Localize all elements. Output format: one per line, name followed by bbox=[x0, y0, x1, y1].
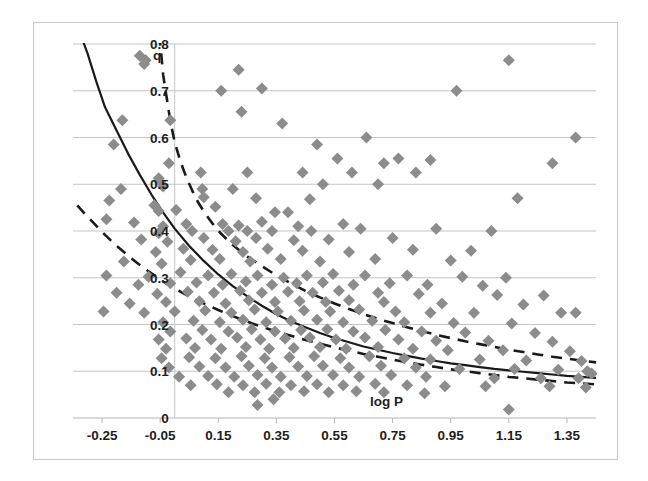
data-point-marker bbox=[237, 379, 249, 391]
data-point-marker bbox=[301, 269, 313, 281]
data-point-marker bbox=[215, 85, 227, 97]
data-point-marker bbox=[262, 243, 274, 255]
data-point-marker bbox=[420, 371, 432, 383]
data-point-marker bbox=[474, 354, 486, 366]
data-point-marker bbox=[343, 246, 355, 258]
data-point-marker bbox=[451, 85, 463, 97]
data-point-marker bbox=[378, 157, 390, 169]
data-point-marker bbox=[546, 336, 558, 348]
data-point-marker bbox=[424, 154, 436, 166]
data-point-marker bbox=[347, 279, 359, 291]
data-point-marker bbox=[275, 371, 287, 383]
data-point-marker bbox=[256, 82, 268, 94]
data-point-marker bbox=[151, 288, 163, 300]
data-point-marker bbox=[509, 363, 521, 375]
y-tick-label: 0.4 bbox=[0, 224, 169, 239]
data-point-marker bbox=[337, 316, 349, 328]
data-point-marker bbox=[196, 324, 208, 336]
data-point-marker bbox=[421, 279, 433, 291]
data-point-marker bbox=[379, 324, 391, 336]
data-point-marker bbox=[243, 294, 255, 306]
data-point-marker bbox=[445, 254, 457, 266]
data-point-marker bbox=[260, 378, 272, 390]
data-point-marker bbox=[375, 360, 387, 372]
figure-container: 00.10.20.30.40.50.60.70.8-0.25-0.050.150… bbox=[0, 0, 648, 481]
y-tick-label: 0.6 bbox=[0, 130, 169, 145]
y-tick-label: 0.2 bbox=[0, 317, 169, 332]
data-point-marker bbox=[308, 350, 320, 362]
data-point-marker bbox=[456, 271, 468, 283]
data-point-marker bbox=[353, 304, 365, 316]
data-point-marker bbox=[520, 355, 532, 367]
y-tick-label: 0.1 bbox=[0, 364, 169, 379]
data-point-marker bbox=[214, 316, 226, 328]
data-point-marker bbox=[491, 289, 503, 301]
data-point-marker bbox=[183, 351, 195, 363]
data-point-marker bbox=[231, 332, 243, 344]
data-point-marker bbox=[448, 317, 460, 329]
y-tick-label: 0.8 bbox=[0, 37, 169, 52]
data-point-marker bbox=[424, 354, 436, 366]
data-point-marker bbox=[570, 132, 582, 144]
data-point-marker bbox=[103, 195, 115, 207]
data-point-marker bbox=[346, 167, 358, 179]
y-axis-title: q bbox=[153, 48, 161, 63]
data-point-marker bbox=[285, 379, 297, 391]
data-point-marker bbox=[311, 378, 323, 390]
data-point-marker bbox=[439, 380, 451, 392]
data-point-marker bbox=[459, 326, 471, 338]
data-point-marker bbox=[465, 245, 477, 257]
data-point-marker bbox=[387, 232, 399, 244]
x-tick-label: 1.15 bbox=[496, 428, 522, 443]
x-tick-label: -0.25 bbox=[87, 428, 118, 443]
data-point-marker bbox=[359, 332, 371, 344]
data-point-marker bbox=[350, 385, 362, 397]
data-point-marker bbox=[360, 132, 372, 144]
data-point-marker bbox=[298, 385, 310, 397]
data-point-marker bbox=[337, 218, 349, 230]
data-point-marker bbox=[575, 355, 587, 367]
data-point-marker bbox=[252, 269, 264, 281]
data-point-marker bbox=[564, 345, 576, 357]
data-point-marker bbox=[390, 305, 402, 317]
data-point-marker bbox=[506, 318, 518, 330]
data-point-marker bbox=[124, 297, 136, 309]
data-point-marker bbox=[199, 304, 211, 316]
data-point-marker bbox=[116, 114, 128, 126]
x-tick-label: 0.75 bbox=[379, 428, 405, 443]
data-point-marker bbox=[269, 206, 281, 218]
data-point-marker bbox=[222, 386, 234, 398]
data-point-marker bbox=[555, 307, 567, 319]
data-point-marker bbox=[250, 232, 262, 244]
data-point-marker bbox=[297, 245, 309, 257]
data-point-marker bbox=[570, 307, 582, 319]
data-point-marker bbox=[153, 333, 165, 345]
x-tick-label: 1.35 bbox=[554, 428, 580, 443]
data-point-marker bbox=[401, 379, 413, 391]
data-point-marker bbox=[413, 288, 425, 300]
data-point-marker bbox=[442, 344, 454, 356]
data-point-marker bbox=[198, 232, 210, 244]
x-tick-label: 0.15 bbox=[205, 428, 231, 443]
data-point-marker bbox=[211, 378, 223, 390]
data-point-marker bbox=[233, 64, 245, 76]
data-point-marker bbox=[297, 167, 309, 179]
data-point-marker bbox=[323, 233, 335, 245]
data-point-marker bbox=[266, 225, 278, 237]
data-point-marker bbox=[276, 117, 288, 129]
data-point-marker bbox=[205, 333, 217, 345]
data-point-marker bbox=[182, 286, 194, 298]
data-point-marker bbox=[419, 387, 431, 399]
data-point-marker bbox=[272, 305, 284, 317]
data-point-marker bbox=[333, 285, 345, 297]
data-point-marker bbox=[497, 344, 509, 356]
data-point-marker bbox=[236, 106, 248, 118]
data-point-marker bbox=[369, 378, 381, 390]
data-point-marker bbox=[260, 316, 272, 328]
x-axis-title: log P bbox=[370, 394, 403, 409]
data-point-marker bbox=[244, 255, 256, 267]
data-point-marker bbox=[252, 399, 264, 411]
data-point-marker bbox=[180, 333, 192, 345]
data-point-marker bbox=[160, 296, 172, 308]
data-point-marker bbox=[416, 326, 428, 338]
